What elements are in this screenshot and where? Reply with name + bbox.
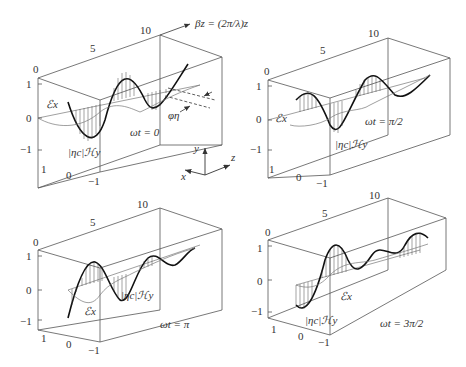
beta-z-axis-label: βz = (2π/λ)z (195, 18, 248, 29)
z-tick-5: 5 (322, 208, 328, 219)
y-tick-1: 1 (256, 81, 262, 92)
x-tick-0: 0 (66, 339, 72, 350)
time-label: ωt = π/2 (365, 116, 403, 127)
time-label: ωt = π (160, 319, 189, 330)
diagram-canvas (0, 0, 466, 367)
z-tick-10: 10 (140, 25, 151, 36)
x-tick-neg1: −1 (316, 178, 328, 189)
e-field-label: ℰx (275, 113, 287, 124)
x-tick-neg1: −1 (88, 176, 100, 187)
y-tick-neg1: −1 (20, 144, 32, 155)
y-tick-0: 0 (257, 276, 263, 287)
x-tick-1: 1 (41, 164, 47, 175)
y-tick-neg1: −1 (250, 144, 262, 155)
y-tick-1: 1 (26, 79, 32, 90)
panel-wt-pi (38, 208, 222, 342)
y-tick-neg1: −1 (251, 306, 263, 317)
y-tick-0: 0 (26, 113, 32, 124)
x-tick-1: 1 (271, 324, 277, 335)
z-tick-0: 0 (33, 64, 39, 75)
time-label: ωt = 0 (130, 127, 159, 138)
z-tick-5: 5 (320, 45, 326, 56)
e-field-label: ℰx (340, 291, 352, 302)
x-tick-1: 1 (41, 333, 47, 344)
z-tick-10: 10 (369, 190, 380, 201)
phase-angle-label: φη (168, 110, 180, 121)
h-field-label: |ηc|ℋy (335, 139, 367, 150)
e-field-label: ℰx (46, 99, 58, 110)
x-tick-0: 0 (298, 331, 304, 342)
z-tick-10: 10 (368, 28, 379, 39)
e-field-label: ℰx (84, 306, 96, 317)
panel-wt-0 (38, 24, 222, 188)
x-tick-neg1: −1 (318, 337, 330, 348)
x-tick-neg1: −1 (88, 345, 100, 356)
axis-x-label: x (181, 171, 186, 182)
x-tick-0: 0 (66, 170, 72, 181)
z-tick-0: 0 (264, 66, 270, 77)
y-tick-0: 0 (26, 285, 32, 296)
y-tick-0: 0 (256, 114, 262, 125)
y-tick-1: 1 (26, 251, 32, 262)
h-field-label: |ηc|ℋy (121, 290, 153, 301)
axis-z-label: z (231, 152, 235, 163)
x-tick-1: 1 (269, 164, 275, 175)
y-tick-neg1: −1 (20, 316, 32, 327)
h-field-label: |ηc|ℋy (68, 147, 100, 158)
panel-wt-3pi-2 (268, 198, 446, 335)
y-tick-1: 1 (257, 243, 263, 254)
x-tick-0: 0 (296, 172, 302, 183)
panel-wt-pi-2 (268, 38, 450, 178)
h-field-label: |ηc|ℋy (305, 315, 337, 326)
axis-y-label: y (194, 143, 199, 154)
time-label: ωt = 3π/2 (380, 318, 423, 329)
z-tick-0: 0 (33, 237, 39, 248)
z-tick-0: 0 (265, 227, 271, 238)
z-tick-5: 5 (90, 43, 96, 54)
z-tick-5: 5 (90, 217, 96, 228)
z-tick-10: 10 (137, 199, 148, 210)
